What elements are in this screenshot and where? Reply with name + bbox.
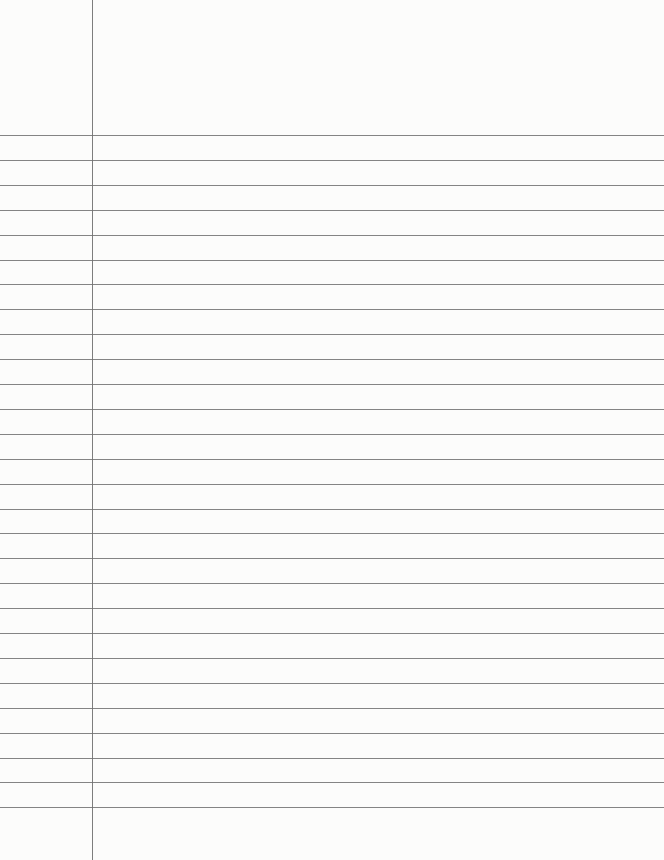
ruled-line <box>0 782 664 783</box>
ruled-line <box>0 633 664 634</box>
ruled-line <box>0 484 664 485</box>
lined-paper-sheet <box>0 0 664 860</box>
ruled-line <box>0 509 664 510</box>
ruled-line <box>0 135 664 136</box>
ruled-line <box>0 733 664 734</box>
ruled-line <box>0 210 664 211</box>
margin-line <box>92 0 93 860</box>
ruled-line <box>0 185 664 186</box>
ruled-line <box>0 683 664 684</box>
ruled-line <box>0 807 664 808</box>
ruled-line <box>0 260 664 261</box>
ruled-line <box>0 284 664 285</box>
ruled-line <box>0 608 664 609</box>
ruled-line <box>0 160 664 161</box>
ruled-line <box>0 334 664 335</box>
ruled-line <box>0 708 664 709</box>
ruled-line <box>0 758 664 759</box>
ruled-line <box>0 309 664 310</box>
ruled-line <box>0 583 664 584</box>
ruled-line <box>0 235 664 236</box>
ruled-line <box>0 434 664 435</box>
ruled-line <box>0 384 664 385</box>
ruled-line <box>0 658 664 659</box>
ruled-line <box>0 409 664 410</box>
ruled-line <box>0 459 664 460</box>
ruled-line <box>0 533 664 534</box>
ruled-line <box>0 558 664 559</box>
ruled-line <box>0 359 664 360</box>
